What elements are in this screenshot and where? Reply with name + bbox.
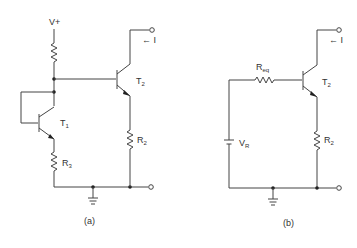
resistor-top-icon <box>51 43 57 62</box>
supply-label: V+ <box>49 17 60 27</box>
req-label: Req <box>256 62 269 73</box>
output-terminal-b <box>337 186 342 191</box>
current-terminal <box>150 28 155 33</box>
current-label: ← I <box>142 35 156 45</box>
current-label-b: ← I <box>329 35 343 45</box>
resistor-r2-icon <box>127 130 133 149</box>
resistor-r2-icon-b <box>314 131 320 150</box>
junction-dot <box>315 186 319 190</box>
circuit-diagram: V+ T1 R3 <box>0 0 357 248</box>
wire <box>229 80 255 140</box>
r2-label-b: R2 <box>324 135 335 146</box>
ground-icon <box>88 187 98 204</box>
wire <box>21 92 54 123</box>
t1-label: T1 <box>60 118 70 129</box>
t2-label-b: T2 <box>322 77 332 88</box>
resistor-req-icon <box>255 77 274 83</box>
vr-label: VR <box>239 138 250 149</box>
r3-label: R3 <box>62 158 73 169</box>
transistor-t2-icon <box>303 65 317 97</box>
resistor-r3-icon <box>51 152 57 171</box>
current-terminal-b <box>337 28 342 33</box>
transistor-t2-icon <box>117 64 130 96</box>
r2-label: R2 <box>137 135 148 146</box>
battery-icon <box>224 140 234 188</box>
t2-label: T2 <box>136 76 146 87</box>
caption-a: (a) <box>84 216 95 226</box>
ground-icon <box>268 188 278 205</box>
panel-a: V+ T1 R3 <box>21 17 156 226</box>
caption-b: (b) <box>283 218 294 228</box>
output-terminal <box>149 185 154 190</box>
panel-b: Req VR T2 ← I R2 <box>224 28 343 228</box>
transistor-t1-icon <box>39 107 54 139</box>
